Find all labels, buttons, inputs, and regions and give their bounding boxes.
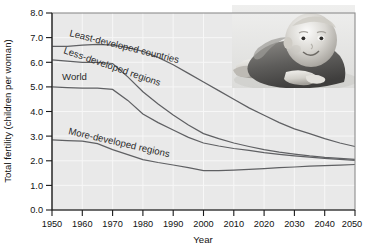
y-tick-label: 8.0 [30,8,43,18]
y-tick-label: 5.0 [30,82,43,92]
fertility-line-chart: Least-developed countries Less-developed… [0,0,367,251]
x-tick-label: 1970 [102,219,122,229]
y-axis-title: Total fertility (children per woman) [2,39,13,182]
x-tick-label: 2050 [342,219,362,229]
x-axis-title: Year [193,234,213,245]
x-tick-label: 1980 [133,219,153,229]
y-tick-label: 2.0 [30,156,43,166]
x-tick-label: 2040 [314,219,334,229]
y-tick-label: 3.0 [30,132,43,142]
x-tick-label: 1950 [42,219,62,229]
y-tick-label: 0.0 [30,205,43,215]
y-tick-label: 1.0 [30,181,43,191]
x-tick-label: 2020 [254,219,274,229]
y-axis-ticks: 8.0 7.0 6.0 5.0 4.0 3.0 2.0 1.0 0.0 [30,8,52,215]
x-tick-label: 1990 [163,219,183,229]
x-axis-ticks: 1950 1960 1970 1980 1990 2000 2010 2020 … [42,210,362,229]
x-tick-label: 2030 [284,219,304,229]
y-tick-label: 7.0 [30,33,43,43]
series-label-world: World [62,71,87,82]
x-tick-label: 2010 [224,219,244,229]
x-tick-label: 1960 [72,219,92,229]
y-tick-label: 6.0 [30,58,43,68]
chart-figure: Least-developed countries Less-developed… [0,0,367,251]
x-tick-label: 2000 [193,219,213,229]
baby-photo [232,5,358,91]
y-tick-label: 4.0 [30,107,43,117]
